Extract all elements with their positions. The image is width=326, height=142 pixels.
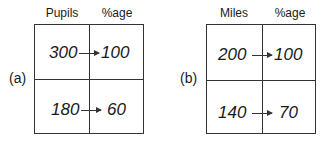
- arrow-icon: [252, 113, 272, 114]
- cell-value: 200: [218, 45, 246, 65]
- divider-horizontal: [207, 80, 315, 81]
- col-header-pupils: Pupils: [34, 6, 90, 20]
- divider-vertical: [262, 25, 263, 133]
- panel-label: (a): [9, 70, 26, 86]
- arrow-icon: [81, 110, 101, 111]
- arrow-icon: [79, 53, 99, 54]
- cell-value: 180: [51, 100, 79, 120]
- cell-value: 300: [49, 43, 77, 63]
- cell-value: 100: [101, 43, 129, 63]
- panel-label: (b): [180, 70, 197, 86]
- cell-value: 70: [279, 103, 298, 123]
- col-header-percentage: %age: [89, 6, 145, 20]
- cell-value: 100: [274, 45, 302, 65]
- ratio-grid: 300 100 180 60: [34, 24, 144, 134]
- arrow-icon: [252, 55, 272, 56]
- col-header-percentage: %age: [262, 6, 318, 20]
- divider-horizontal: [35, 79, 143, 80]
- ratio-grid: 200 100 140 70: [206, 24, 316, 134]
- cell-value: 60: [107, 100, 126, 120]
- cell-value: 140: [218, 103, 246, 123]
- col-header-miles: Miles: [206, 6, 262, 20]
